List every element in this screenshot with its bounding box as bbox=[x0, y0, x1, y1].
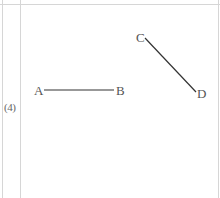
geometry-figure bbox=[0, 0, 220, 198]
point-c-label: C bbox=[136, 31, 145, 44]
segment-cd bbox=[145, 38, 196, 92]
point-b-label: B bbox=[116, 84, 125, 97]
point-d-label: D bbox=[197, 87, 206, 100]
point-a-label: A bbox=[34, 84, 43, 97]
